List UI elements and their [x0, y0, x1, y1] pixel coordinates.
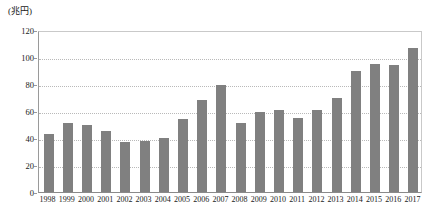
x-axis-tick: 2009 [251, 195, 267, 204]
bars-layer [39, 32, 421, 192]
x-axis-tick: 2005 [174, 195, 190, 204]
y-axis-tick: 20 [4, 161, 34, 171]
y-axis-tickmark [34, 166, 37, 167]
bar-slot [58, 32, 77, 192]
bar-slot [308, 32, 327, 192]
y-axis-tick: 120 [4, 26, 34, 36]
bar [63, 123, 73, 192]
bar [255, 112, 265, 192]
y-axis-tick-labels: 020406080100120 [0, 31, 34, 193]
bar [120, 142, 130, 192]
bar-slot [77, 32, 96, 192]
x-axis-tick: 2003 [136, 195, 152, 204]
bar [312, 110, 322, 192]
bar [274, 110, 284, 192]
bar-slot [154, 32, 173, 192]
bar [370, 64, 380, 192]
plot-area [38, 31, 422, 193]
x-axis-tick: 2002 [116, 195, 132, 204]
bar-chart: (兆円) 020406080100120 1998199920002001200… [0, 0, 432, 214]
y-axis-tick: 100 [4, 53, 34, 63]
y-axis-tickmark [34, 85, 37, 86]
bar [408, 48, 418, 192]
x-axis-tick: 2001 [97, 195, 113, 204]
y-axis-tickmark [34, 112, 37, 113]
bar-slot [365, 32, 384, 192]
x-axis-tick: 1998 [40, 195, 56, 204]
x-axis-tick: 2000 [78, 195, 94, 204]
y-axis-tickmark [34, 193, 37, 194]
x-axis-tick: 1999 [59, 195, 75, 204]
bar [389, 65, 399, 192]
x-axis-tick: 2007 [212, 195, 228, 204]
y-axis-tickmark [34, 139, 37, 140]
bar [332, 98, 342, 193]
bar [101, 131, 111, 192]
y-axis-tick: 80 [4, 80, 34, 90]
x-axis-tick: 2010 [270, 195, 286, 204]
bar [197, 100, 207, 192]
bar-slot [289, 32, 308, 192]
bar-slot [116, 32, 135, 192]
x-axis-tick: 2015 [366, 195, 382, 204]
bar-slot [231, 32, 250, 192]
y-axis-tick: 0 [4, 188, 34, 198]
x-axis-tick: 2011 [289, 195, 305, 204]
x-axis-tick: 2008 [232, 195, 248, 204]
bar-slot [173, 32, 192, 192]
x-axis-tick: 2013 [328, 195, 344, 204]
bar [216, 85, 226, 192]
x-axis-tick: 2017 [404, 195, 420, 204]
bar [351, 71, 361, 193]
bar-slot [327, 32, 346, 192]
bar-slot [346, 32, 365, 192]
x-axis-tick: 2014 [347, 195, 363, 204]
x-axis-tick: 2012 [308, 195, 324, 204]
y-axis-tickmark [34, 58, 37, 59]
y-axis-tick: 60 [4, 107, 34, 117]
y-axis-unit-label: (兆円) [8, 4, 32, 17]
bar [140, 141, 150, 192]
bar-slot [385, 32, 404, 192]
bar-slot [212, 32, 231, 192]
x-axis-tick: 2016 [385, 195, 401, 204]
bar [44, 134, 54, 192]
bar [82, 125, 92, 193]
bar-slot [193, 32, 212, 192]
y-axis-tick: 40 [4, 134, 34, 144]
x-axis-tick: 2004 [155, 195, 171, 204]
bar [293, 118, 303, 192]
bar [236, 123, 246, 192]
bar-slot [39, 32, 58, 192]
bar-slot [404, 32, 423, 192]
bar [178, 119, 188, 192]
x-axis-tick: 2006 [193, 195, 209, 204]
y-axis-tickmark [34, 31, 37, 32]
x-axis-tick-labels: 1998199920002001200220032004200520062007… [38, 195, 422, 211]
bar-slot [250, 32, 269, 192]
bar-slot [135, 32, 154, 192]
bar-slot [97, 32, 116, 192]
bar-slot [269, 32, 288, 192]
bar [159, 138, 169, 192]
